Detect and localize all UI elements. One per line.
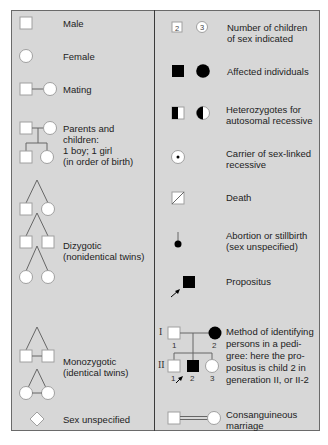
death-icon <box>172 192 184 204</box>
individual-number-ii-3: 3 <box>210 374 214 383</box>
label-dizygotic: Dizygotic (nonidentical twins) <box>63 240 144 262</box>
heterozygote-icon <box>172 107 210 120</box>
label-carrier-sex-linked: Carrier of sex-linked recessive <box>226 148 311 170</box>
label-monozygotic: Monozygotic (identical twins) <box>63 356 128 378</box>
consanguineous-marriage-icon <box>168 412 221 425</box>
propositus-icon <box>171 276 195 297</box>
label-propositus: Propositus <box>226 276 271 287</box>
generation-label-ii: II <box>158 359 165 370</box>
female-symbol-icon <box>20 50 33 63</box>
individual-number-i-1: 1 <box>172 341 176 350</box>
family-tree-icon <box>20 122 57 164</box>
label-heterozygotes: Heterozygotes for autosomal recessive <box>226 104 313 126</box>
individual-number-ii-2: 2 <box>190 374 194 383</box>
dizygotic-twins-boy-boy-icon <box>20 213 54 248</box>
label-mating: Mating <box>63 84 92 95</box>
label-number-children: Number of children of sex indicated <box>227 22 307 44</box>
label-parents-children: Parents and children: 1 boy; 1 girl (in … <box>63 123 133 167</box>
label-death: Death <box>226 192 251 203</box>
svg-text:3: 3 <box>200 23 204 32</box>
diamond-icon <box>30 412 44 426</box>
abortion-stillbirth-icon <box>175 232 182 248</box>
label-sex-unspecified: Sex unspecified <box>63 414 130 425</box>
label-male: Male <box>63 18 84 29</box>
affected-individuals-icon <box>172 64 210 78</box>
individual-number-ii-1: 1 <box>171 374 175 383</box>
generation-label-i: I <box>159 326 162 337</box>
label-female: Female <box>63 51 95 62</box>
mating-symbol-icon <box>20 83 57 96</box>
dizygotic-twins-girl-girl-icon <box>20 246 55 284</box>
dizygotic-twins-boy-girl-icon <box>20 180 55 216</box>
numbered-children-icon: 2 3 <box>172 22 208 33</box>
label-abortion: Abortion or stillbirth (sex unspecified) <box>226 230 307 252</box>
label-pedigree-method: Method of identifying persons in a pedi-… <box>226 326 314 386</box>
monozygotic-twins-girls-icon <box>20 369 55 400</box>
male-symbol-icon <box>20 17 32 29</box>
individual-number-i-2: 2 <box>212 341 216 350</box>
carrier-sex-linked-icon <box>172 151 185 164</box>
label-consanguineous: Consanguineous marriage <box>226 409 297 431</box>
monozygotic-twins-boys-icon <box>20 327 54 362</box>
svg-text:2: 2 <box>175 24 179 33</box>
label-affected: Affected individuals <box>227 66 309 77</box>
